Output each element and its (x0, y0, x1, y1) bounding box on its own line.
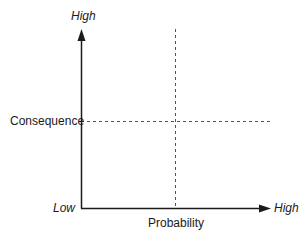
origin-low-label: Low (53, 201, 75, 215)
risk-matrix-diagram: High Consequence Low Probability High (0, 0, 305, 238)
y-axis-arrow-icon (78, 29, 86, 41)
y-axis-title: Consequence (10, 114, 84, 128)
x-axis-arrow-icon (259, 205, 271, 213)
x-axis-high-label: High (274, 201, 299, 215)
y-axis-high-label: High (71, 9, 96, 23)
x-axis-title: Probability (148, 216, 204, 230)
